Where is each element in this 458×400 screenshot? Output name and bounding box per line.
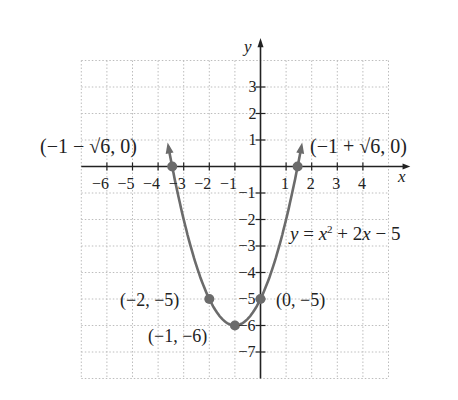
y-tick-label: −6: [239, 318, 256, 334]
y-tick-label: −1: [239, 185, 256, 201]
right-root-label: (−1 + √6, 0): [310, 136, 407, 156]
x-tick-label: 1: [281, 176, 289, 192]
y-tick-label: 3: [249, 79, 257, 95]
curve-arrow-icon: [296, 142, 304, 154]
curve-arrow-icon: [166, 142, 174, 154]
y-axis-arrow-icon: [258, 38, 264, 47]
y-tick-label: 1: [249, 132, 257, 148]
y-tick-label: −5: [239, 291, 256, 307]
y-tick-label: −3: [239, 238, 256, 254]
curve-point: [256, 294, 266, 304]
curve-point: [293, 162, 303, 172]
vertex-label: (−1, −6): [148, 327, 207, 345]
y-axis-label: y: [244, 38, 252, 55]
x-tick-label: −2: [194, 176, 211, 192]
equation-label: y = x2 + 2x − 5: [290, 224, 400, 243]
curve-point: [167, 162, 177, 172]
plot-area: [0, 0, 458, 400]
y-tick-label: −2: [239, 212, 256, 228]
parabola-graph: y x (−1 − √6, 0) (−1 + √6, 0) (−2, −5) (…: [0, 0, 458, 400]
curve-point: [204, 294, 214, 304]
x-tick-label: 2: [307, 176, 315, 192]
point-m2-label: (−2, −5): [120, 291, 179, 309]
x-tick-label: −5: [118, 176, 135, 192]
left-root-label: (−1 − √6, 0): [40, 136, 137, 156]
x-axis-label: x: [398, 168, 406, 185]
y-tick-label: 2: [249, 106, 257, 122]
x-tick-label: −1: [220, 176, 237, 192]
y-tick-label: −4: [239, 265, 256, 281]
x-tick-label: −3: [169, 176, 186, 192]
point-0-label: (0, −5): [276, 291, 325, 309]
x-tick-label: 3: [332, 176, 340, 192]
y-tick-label: −7: [239, 344, 256, 360]
x-tick-label: −6: [92, 176, 109, 192]
x-tick-label: 4: [358, 176, 366, 192]
x-tick-label: −4: [143, 176, 160, 192]
